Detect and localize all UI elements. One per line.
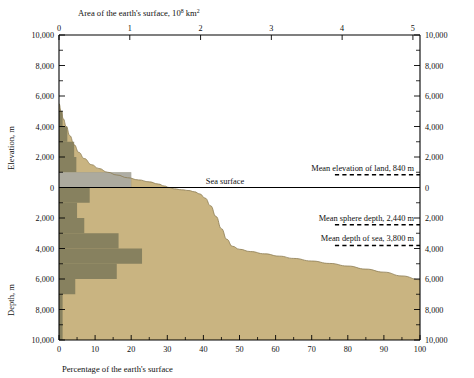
bottom-tick-label: 30 (163, 345, 171, 354)
right-tick-label: 6,000 (425, 92, 443, 101)
right-tick-label: 0 (425, 184, 429, 193)
near-sea-level-band (59, 172, 131, 187)
chart-canvas: Area of the earth's surface, 108 km2 Sea… (0, 0, 474, 378)
top-tick-label: 3 (269, 24, 273, 33)
left-tick-label: 8,000 (36, 306, 54, 315)
bottom-axis-title: Percentage of the earth's surface (62, 364, 173, 374)
right-tick-label: 6,000 (425, 275, 443, 284)
right-tick-label: 4,000 (425, 245, 443, 254)
top-tick-label: 0 (57, 24, 61, 33)
left-tick-label: 0 (50, 184, 54, 193)
bottom-tick-label: 50 (235, 345, 243, 354)
left-tick-label: 6,000 (36, 92, 54, 101)
histogram-bar (59, 203, 77, 218)
histogram-bar (59, 249, 142, 264)
bottom-tick-label: 100 (414, 345, 426, 354)
bottom-tick-label: 20 (127, 345, 135, 354)
left-tick-label: 10,000 (31, 336, 54, 345)
top-tick-label: 5 (411, 24, 415, 33)
bottom-tick-label: 90 (380, 345, 388, 354)
top-tick-label: 2 (199, 24, 203, 33)
top-tick-label: 4 (340, 24, 344, 33)
right-tick-label: 8,000 (425, 306, 443, 315)
bottom-tick-label: 70 (308, 345, 316, 354)
bottom-tick-label: 40 (199, 345, 207, 354)
bottom-tick-label: 0 (57, 345, 61, 354)
right-tick-label: 4,000 (425, 123, 443, 132)
left-tick-label: 2,000 (36, 214, 54, 223)
histogram-bar (59, 233, 119, 248)
right-tick-label: 10,000 (425, 31, 448, 40)
bottom-tick-label: 60 (272, 345, 280, 354)
left-axis-elevation-title: Elevation, m (6, 126, 16, 170)
histogram-bar (59, 142, 74, 157)
right-tick-label: 8,000 (425, 62, 443, 71)
annotation-label: Mean sphere depth, 2,440 m (319, 214, 415, 223)
annotation-sea-surface: Sea surface (206, 177, 245, 186)
left-tick-label: 10,000 (31, 31, 54, 40)
histogram-bar (59, 279, 75, 294)
left-tick-label: 4,000 (36, 123, 54, 132)
top-tick-label: 1 (128, 24, 132, 33)
right-tick-label: 10,000 (425, 336, 448, 345)
left-tick-label: 8,000 (36, 62, 54, 71)
histogram-bar (59, 218, 84, 233)
annotation-label: Mean depth of sea, 3,800 m (321, 234, 415, 243)
top-axis-title: Area of the earth's surface, 108 km2 (78, 8, 200, 18)
right-tick-label: 2,000 (425, 153, 443, 162)
histogram-bar (59, 264, 117, 279)
hypsometric-curve-chart: Area of the earth's surface, 108 km2 Sea… (0, 0, 474, 378)
left-tick-label: 6,000 (36, 275, 54, 284)
bottom-tick-label: 80 (344, 345, 352, 354)
right-tick-label: 2,000 (425, 214, 443, 223)
annotation-label: Mean elevation of land, 840 m (311, 164, 414, 173)
histogram-bar (59, 188, 90, 203)
histogram-bar (59, 127, 67, 142)
bottom-tick-label: 10 (91, 345, 99, 354)
histogram-bar (59, 157, 76, 172)
left-tick-label: 4,000 (36, 245, 54, 254)
left-tick-label: 2,000 (36, 153, 54, 162)
left-axis-depth-title: Depth, m (6, 284, 16, 316)
